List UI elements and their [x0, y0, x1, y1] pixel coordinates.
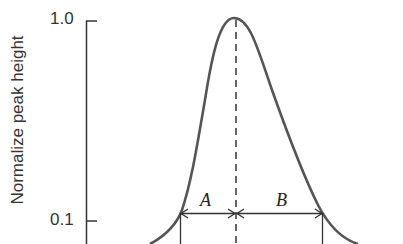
- label-a: A: [200, 190, 211, 211]
- peak-curve: [150, 18, 358, 244]
- label-b: B: [276, 190, 287, 211]
